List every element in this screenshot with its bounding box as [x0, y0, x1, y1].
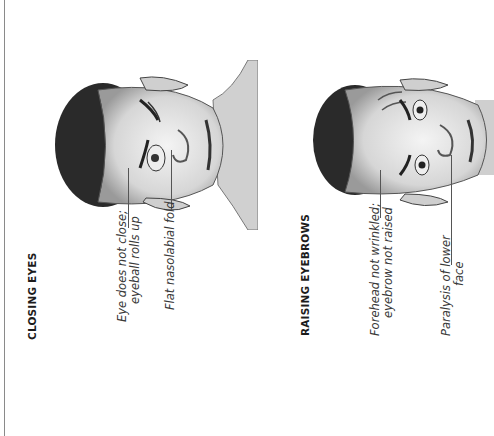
face-illustration-raising-eyebrows: [300, 70, 494, 210]
label-eye-does-not-close: Eye does not close; eyeball rolls up: [116, 210, 142, 322]
label-forehead-not-wrinkled: Forehead not wrinkled; eyebrow not raise…: [369, 203, 395, 336]
face-illustration-closing-eyes: [28, 60, 258, 230]
label-line-2: face: [453, 235, 466, 336]
section-heading-raising-eyebrows: RAISING EYEBROWS: [299, 214, 311, 336]
label-line-1: Eye does not close;: [115, 210, 129, 322]
label-flat-nasolabial-fold: Flat nasolabial fold: [164, 201, 177, 310]
label-line-1: Forehead not wrinkled;: [368, 203, 382, 336]
label-line-1: Paralysis of lower: [439, 235, 453, 336]
label-line-2: eyebrow not raised: [382, 203, 395, 336]
section-heading-closing-eyes: CLOSING EYES: [26, 253, 38, 340]
label-paralysis-lower-face: Paralysis of lower face: [440, 235, 466, 336]
label-line-2: eyeball rolls up: [129, 210, 142, 322]
page-margin-rule: [4, 0, 5, 436]
label-line-1: Flat nasolabial fold: [163, 201, 177, 310]
